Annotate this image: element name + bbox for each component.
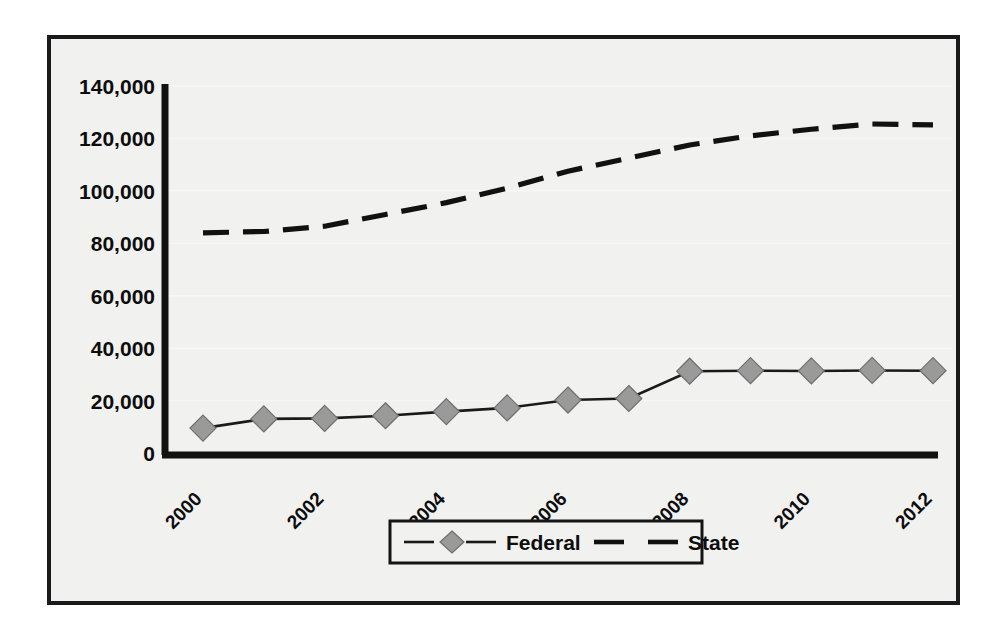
data-point-marker-federal [373,403,399,429]
y-axis-tick-label: 0 [143,442,155,465]
gridlines-group [168,86,952,401]
y-axis-tick-label: 120,000 [79,127,155,150]
data-point-marker-federal [920,358,946,384]
data-point-marker-federal [677,358,703,384]
y-axis-tick-label: 100,000 [79,180,155,203]
chart-canvas: 020,00040,00060,00080,000100,000120,0001… [0,0,1000,634]
y-axis-tick-label: 40,000 [91,337,155,360]
legend-label-federal: Federal [506,531,581,554]
data-point-marker-federal [859,357,885,383]
data-point-marker-federal [190,415,216,441]
data-point-marker-federal [312,405,338,431]
x-axis-tick-label: 2012 [891,488,936,533]
x-axis-tick-label: 2010 [769,488,814,533]
data-point-marker-federal [433,399,459,425]
chart-figure: 020,00040,00060,00080,000100,000120,0001… [0,0,1000,634]
data-point-marker-federal [494,395,520,421]
data-point-marker-federal [616,385,642,411]
legend-label-state: State [688,531,739,554]
x-axis-tick-label: 2000 [161,488,206,533]
y-axis-tick-label: 140,000 [79,75,155,98]
data-point-marker-federal [738,358,764,384]
series-line-state [203,124,933,233]
y-axis-tick-labels: 020,00040,00060,00080,000100,000120,0001… [79,75,155,465]
y-axis-tick-label: 20,000 [91,390,155,413]
y-axis-tick-label: 80,000 [91,232,155,255]
y-axis-tick-label: 60,000 [91,285,155,308]
data-point-marker-federal [251,406,277,432]
data-point-marker-federal [555,387,581,413]
chart-legend: Federal State [390,521,739,563]
x-axis-tick-label: 2002 [283,488,328,533]
data-point-marker-federal [798,358,824,384]
